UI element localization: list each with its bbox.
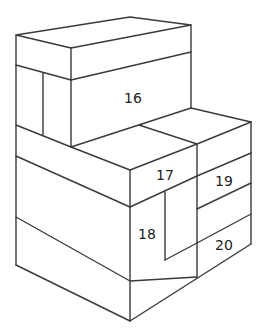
lower-block-edges [16, 122, 251, 321]
label-17: 17 [156, 167, 174, 183]
block-diagram: 16 17 18 19 20 [0, 0, 268, 334]
label-20: 20 [215, 237, 233, 253]
label-19: 19 [215, 173, 233, 189]
label-16: 16 [124, 90, 142, 106]
step-top-edges [71, 108, 251, 170]
label-18: 18 [138, 226, 156, 242]
